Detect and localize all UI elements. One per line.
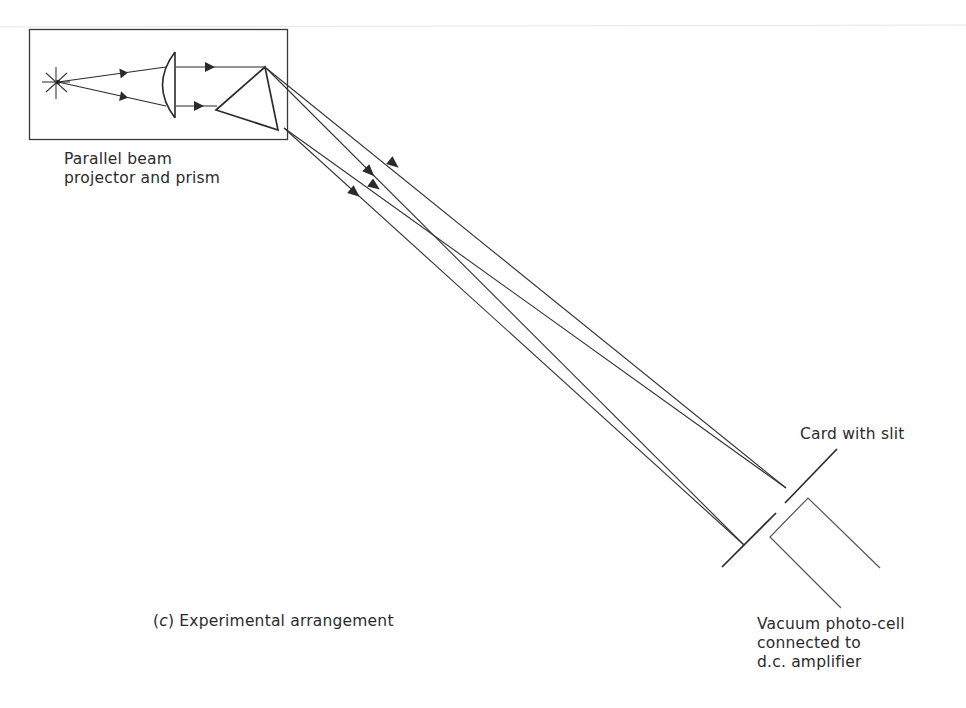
arrow-icon — [367, 178, 383, 193]
card-label-text: Card with slit — [800, 425, 905, 443]
arrow-icon — [386, 156, 402, 171]
diverging-rays — [58, 67, 166, 106]
vacuum-photo-cell — [770, 498, 880, 608]
arrow-icon — [205, 62, 215, 72]
figure-caption: (c) Experimental arrangement — [153, 612, 394, 631]
projector-label: Parallel beam projector and prism — [64, 150, 220, 188]
output-beams — [266, 68, 786, 545]
caption-text: Experimental arrangement — [174, 612, 393, 630]
photocell-label: Vacuum photo-cell connected to d.c. ampl… — [757, 615, 905, 672]
projector-label-line-2: projector and prism — [64, 169, 220, 188]
card-with-slit — [722, 449, 837, 567]
photocell-label-line-1: Vacuum photo-cell — [757, 615, 905, 634]
parallel-rays — [176, 67, 265, 106]
arrow-icon — [194, 101, 204, 111]
experimental-arrangement-diagram — [0, 0, 966, 708]
light-source-icon — [42, 67, 70, 99]
scan-edge-line — [0, 25, 966, 27]
upper-beam-1 — [266, 68, 786, 488]
photocell-label-line-2: connected to — [757, 634, 905, 653]
photocell-label-line-3: d.c. amplifier — [757, 653, 905, 672]
caption-prefix: (c) — [153, 612, 174, 630]
upper-beam-2 — [266, 68, 744, 545]
lower-beam-1 — [284, 128, 786, 488]
projector-label-line-1: Parallel beam — [64, 150, 220, 169]
prism — [216, 67, 278, 130]
condenser-lens — [163, 52, 176, 118]
card-label: Card with slit — [800, 425, 905, 444]
arrow-icon — [119, 67, 128, 78]
